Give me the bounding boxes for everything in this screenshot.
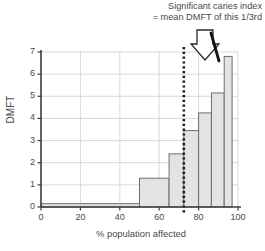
histogram-bar xyxy=(169,154,184,207)
y-tick-label: 1 xyxy=(21,179,35,189)
x-tick-label: 60 xyxy=(148,212,170,222)
y-tick-label: 5 xyxy=(21,90,35,100)
x-tick-label: 20 xyxy=(69,212,91,222)
histogram-bar xyxy=(184,131,199,207)
histogram-bar xyxy=(140,178,170,207)
x-tick-label: 80 xyxy=(188,212,210,222)
y-tick-label: 2 xyxy=(21,157,35,167)
caries-histogram-figure: Significant caries index = mean DMFT of … xyxy=(0,0,265,251)
histogram-bar xyxy=(211,93,224,207)
x-tick-label: 0 xyxy=(30,212,52,222)
x-tick-label: 100 xyxy=(227,212,249,222)
y-tick-label: 6 xyxy=(21,68,35,78)
x-tick-label: 40 xyxy=(109,212,131,222)
y-tick-label: 7 xyxy=(21,46,35,56)
y-tick-label: 0 xyxy=(21,201,35,211)
histogram-bar xyxy=(224,56,232,207)
histogram-bar xyxy=(199,113,212,207)
y-tick-label: 3 xyxy=(21,135,35,145)
y-tick-label: 4 xyxy=(21,112,35,122)
